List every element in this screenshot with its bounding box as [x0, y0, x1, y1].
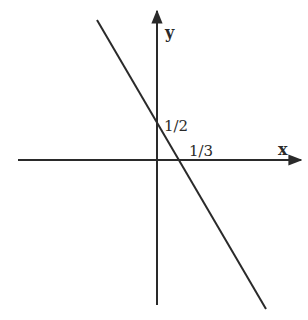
- graph-canvas: y x 1/2 1/3: [0, 0, 308, 320]
- x-axis-label: x: [278, 140, 288, 159]
- y-intercept-label: 1/2: [164, 117, 188, 135]
- plotted-line: [97, 20, 266, 309]
- x-intercept-label: 1/3: [189, 142, 213, 160]
- y-axis-label: y: [164, 23, 175, 42]
